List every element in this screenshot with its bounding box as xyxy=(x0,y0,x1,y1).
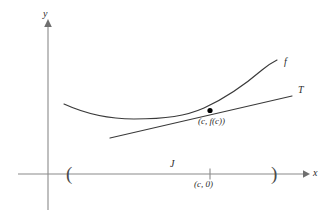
y-axis-label: y xyxy=(43,9,47,19)
figure-canvas xyxy=(0,0,329,216)
interval-open-bracket: ( xyxy=(66,164,72,183)
function-curve-f xyxy=(64,60,277,119)
y-axis-arrowhead xyxy=(44,19,52,27)
x-tick-label-c-zero: (c, 0) xyxy=(194,180,213,189)
tangency-point-marker xyxy=(207,108,212,113)
curve-label-f: f xyxy=(284,57,287,67)
x-axis-label: x xyxy=(313,168,317,178)
tangent-line-figure: y x ( ) J (c, 0) (c, f(c)) f T xyxy=(0,0,329,216)
interval-close-bracket: ) xyxy=(271,164,277,183)
x-axis-arrowhead xyxy=(303,170,310,178)
interval-label-J: J xyxy=(170,159,174,169)
tangent-label-T: T xyxy=(298,85,304,95)
point-label-c-fc: (c, f(c)) xyxy=(198,117,225,126)
